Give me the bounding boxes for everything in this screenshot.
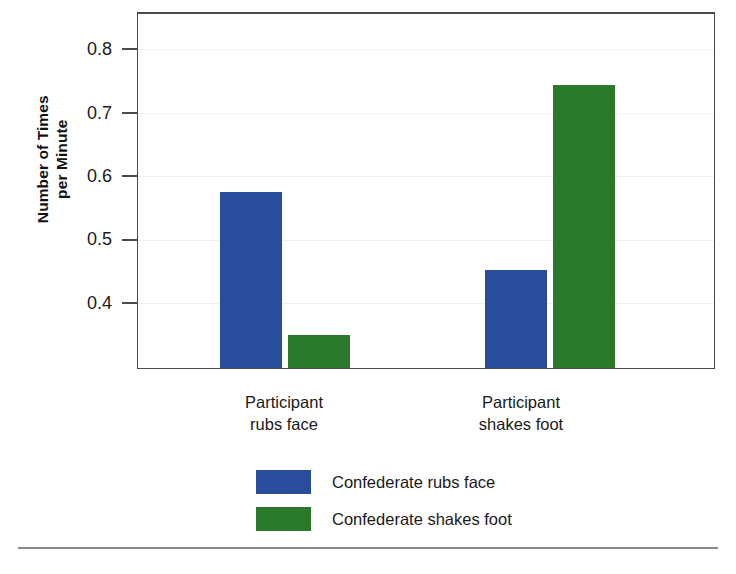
y-tick-label: 0.5 [66, 230, 112, 248]
y-tick-label: 0.8 [66, 40, 112, 58]
legend-swatch-blue-icon [256, 470, 311, 494]
y-tick-mark [122, 48, 137, 50]
bar-participant-shakes-foot-confederate-rubs-face[interactable] [485, 270, 547, 368]
y-tick-mark [122, 175, 137, 177]
legend: Confederate rubs face Confederate shakes… [256, 468, 512, 542]
bar-participant-shakes-foot-confederate-shakes-foot[interactable] [553, 85, 615, 368]
footer-rule [18, 547, 718, 549]
y-tick-label: 0.7 [66, 104, 112, 122]
legend-label: Confederate rubs face [332, 474, 495, 491]
y-tick-mark [122, 112, 137, 114]
legend-swatch-green-icon [256, 507, 311, 531]
bar-chart-figure: Number of Times per Minute 0.8 0.7 0.6 0… [0, 0, 736, 574]
bars-layer [139, 13, 714, 368]
y-tick-label: 0.6 [66, 167, 112, 185]
category-label-participant-shakes-foot: Participant shakes foot [421, 391, 621, 436]
y-tick-mark [122, 239, 137, 241]
legend-item-confederate-shakes-foot[interactable]: Confederate shakes foot [256, 505, 512, 533]
bar-participant-rubs-face-confederate-rubs-face[interactable] [220, 192, 282, 368]
bar-participant-rubs-face-confederate-shakes-foot[interactable] [288, 335, 350, 368]
y-tick-mark [122, 302, 137, 304]
category-label-participant-rubs-face: Participant rubs face [184, 391, 384, 436]
legend-label: Confederate shakes foot [332, 511, 512, 528]
y-tick-label: 0.4 [66, 294, 112, 312]
legend-item-confederate-rubs-face[interactable]: Confederate rubs face [256, 468, 512, 496]
